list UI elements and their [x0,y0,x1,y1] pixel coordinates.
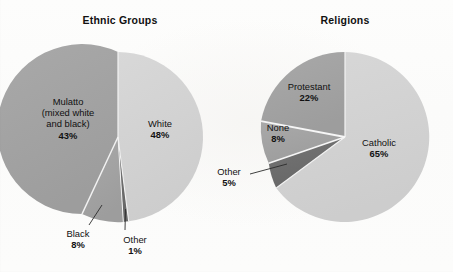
pie-label-ethnic-mulatto-line1: Mulatto [22,96,114,107]
pie-label-ethnic-black-value: 8% [55,239,101,250]
pie-label-ethnic-black: Black 8% [55,228,101,250]
pie-label-religions-protestant: Protestant 22% [272,81,346,103]
leader-line-ethnic-other [125,209,126,230]
pie-label-religions-none: None 8% [256,122,300,144]
pie-label-ethnic-mulatto-line3: and black) [22,118,114,129]
pie-label-religions-protestant-value: 22% [272,92,346,103]
pie-chart-figure: Ethnic Groups Religions [0,0,453,272]
pie-label-religions-catholic: Catholic 65% [348,137,410,159]
pie-label-ethnic-other-value: 1% [112,245,158,256]
pie-label-religions-catholic-value: 65% [348,148,410,159]
pie-label-ethnic-white: White 48% [132,118,188,140]
pie-label-religions-protestant-name: Protestant [272,81,346,92]
pie-label-ethnic-mulatto: Mulatto (mixed white and black) 43% [22,96,114,141]
pie-label-ethnic-mulatto-value: 43% [22,130,114,141]
pie-label-ethnic-mulatto-line2: (mixed white [22,107,114,118]
pie-label-ethnic-black-name: Black [55,228,101,239]
pie-label-religions-none-value: 8% [256,133,300,144]
pie-label-religions-none-name: None [256,122,300,133]
pie-label-religions-other-name: Other [208,166,250,177]
pie-label-religions-catholic-name: Catholic [348,137,410,148]
pie-label-ethnic-white-value: 48% [132,129,188,140]
pie-label-religions-other: Other 5% [208,166,250,188]
pie-label-ethnic-other: Other 1% [112,234,158,256]
pie-label-ethnic-white-name: White [132,118,188,129]
pie-label-religions-other-value: 5% [208,177,250,188]
pie-label-ethnic-other-name: Other [112,234,158,245]
